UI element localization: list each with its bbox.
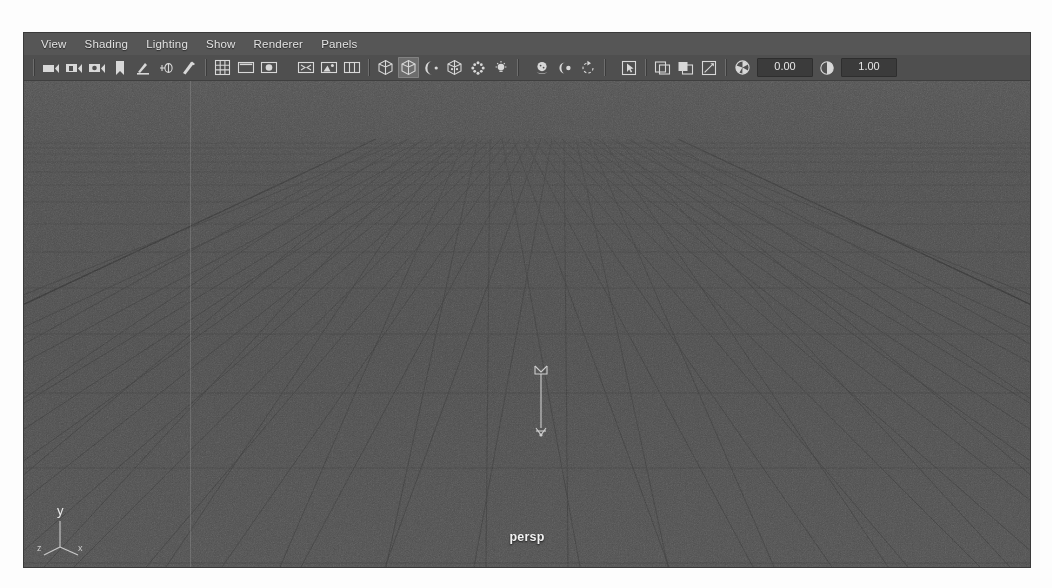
xray-active-components-icon[interactable] xyxy=(698,57,719,78)
exposure-split-icon[interactable] xyxy=(341,57,362,78)
screenshot-root: View Shading Lighting Show Renderer Pane… xyxy=(0,0,1052,588)
xray-shading-icon[interactable] xyxy=(675,57,696,78)
menu-item-shading[interactable]: Shading xyxy=(76,33,138,55)
textured-cube-icon[interactable] xyxy=(444,57,465,78)
image-plane-icon[interactable] xyxy=(318,57,339,78)
isolate-select-icon[interactable] xyxy=(652,57,673,78)
toolbar-separator xyxy=(645,59,646,76)
ambient-occlusion-icon[interactable] xyxy=(554,57,575,78)
toolbar-separator xyxy=(368,59,369,76)
exposure-value-field[interactable]: 0.00 xyxy=(757,58,813,77)
shadows-icon[interactable] xyxy=(531,57,552,78)
motion-blur-icon[interactable] xyxy=(577,57,598,78)
toolbar-separator xyxy=(33,59,34,76)
viewport-menubar: View Shading Lighting Show Renderer Pane… xyxy=(24,33,1030,55)
menu-item-view[interactable]: View xyxy=(32,33,76,55)
film-gate-icon[interactable] xyxy=(235,57,256,78)
viewport-grid xyxy=(24,81,1030,567)
select-arrow-icon[interactable] xyxy=(618,57,639,78)
camera-bookmark-icon[interactable] xyxy=(63,57,84,78)
menu-item-lighting[interactable]: Lighting xyxy=(137,33,197,55)
viewport-panel: View Shading Lighting Show Renderer Pane… xyxy=(24,33,1030,567)
select-camera-icon[interactable] xyxy=(40,57,61,78)
toolbar-separator xyxy=(604,59,605,76)
grid-icon[interactable] xyxy=(212,57,233,78)
wireframe-sphere-icon[interactable] xyxy=(467,57,488,78)
perspective-viewport[interactable]: y z x persp xyxy=(24,81,1030,567)
menu-item-show[interactable]: Show xyxy=(197,33,245,55)
wireframe-cube-icon[interactable] xyxy=(375,57,396,78)
resolution-gate-icon[interactable] xyxy=(258,57,279,78)
light-bulb-icon[interactable] xyxy=(490,57,511,78)
gamma-contrast-icon[interactable] xyxy=(816,57,837,78)
smooth-shade-cube-icon[interactable] xyxy=(398,57,419,78)
bookmark-icon[interactable] xyxy=(109,57,130,78)
gamma-value-field[interactable]: 1.00 xyxy=(841,58,897,77)
camera-name-label: persp xyxy=(24,530,1030,544)
shaded-sphere-icon[interactable] xyxy=(421,57,442,78)
grease-pencil-icon[interactable] xyxy=(155,57,176,78)
toolbar-separator xyxy=(205,59,206,76)
xray-joints-icon[interactable] xyxy=(178,57,199,78)
toolbar-separator xyxy=(517,59,518,76)
two-d-pan-zoom-icon[interactable] xyxy=(132,57,153,78)
exposure-aperture-icon[interactable] xyxy=(732,57,753,78)
gate-mask-icon[interactable] xyxy=(295,57,316,78)
camera-attributes-icon[interactable] xyxy=(86,57,107,78)
menu-item-panels[interactable]: Panels xyxy=(312,33,366,55)
menu-item-renderer[interactable]: Renderer xyxy=(245,33,313,55)
viewport-toolbar: 0.00 1.00 xyxy=(24,55,1030,81)
toolbar-separator xyxy=(725,59,726,76)
